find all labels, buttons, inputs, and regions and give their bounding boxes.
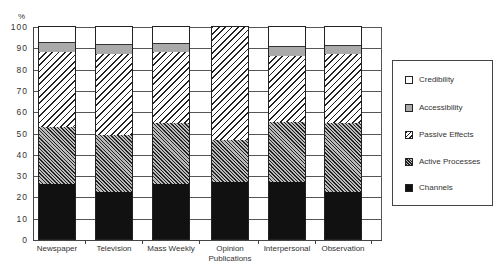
bar-opinion-publications xyxy=(211,26,249,240)
accessibility-segment xyxy=(325,45,361,53)
legend: Credibility Accessibility Passive Effect… xyxy=(392,60,493,206)
channels-segment xyxy=(212,182,248,239)
accessibility-segment xyxy=(153,43,189,53)
legend-item-credibility: Credibility xyxy=(405,75,454,84)
channels-segment xyxy=(153,184,189,239)
passive-effects-segment xyxy=(96,54,132,136)
legend-item-channels: Channels xyxy=(405,183,453,192)
credibility-segment xyxy=(325,27,361,45)
legend-label: Credibility xyxy=(419,75,454,84)
y-axis-line xyxy=(33,27,34,240)
y-tick-label: 80 xyxy=(0,65,28,75)
credibility-segment xyxy=(153,27,189,43)
accessibility-segment xyxy=(96,44,132,54)
active-processes-segment xyxy=(96,135,132,192)
y-tick-label: 10 xyxy=(0,214,28,224)
legend-label: Accessibility xyxy=(419,103,463,112)
x-label-line: Publications xyxy=(195,254,265,264)
bar-interpersonal xyxy=(268,26,306,240)
y-tick-label: 100 xyxy=(0,22,28,32)
accessibility-swatch-icon xyxy=(405,104,413,112)
y-tick-label: 90 xyxy=(0,43,28,53)
channels-segment xyxy=(96,192,132,239)
active-processes-segment xyxy=(269,122,305,181)
channels-segment xyxy=(325,192,361,239)
y-tick-label: 60 xyxy=(0,107,28,117)
active-processes-segment xyxy=(153,123,189,183)
passive-effects-segment xyxy=(269,56,305,123)
accessibility-segment xyxy=(39,42,75,53)
active-processes-segment xyxy=(39,127,75,184)
passive-effects-segment xyxy=(153,52,189,123)
channels-segment xyxy=(269,182,305,239)
y-tick-label: 20 xyxy=(0,192,28,202)
channels-segment xyxy=(39,184,75,239)
x-axis-line xyxy=(33,240,382,241)
active-processes-segment xyxy=(212,140,248,181)
credibility-segment xyxy=(269,27,305,46)
plot-area xyxy=(33,27,382,240)
x-label-line: Observation xyxy=(308,244,378,254)
bar-television xyxy=(95,26,133,240)
y-tick-label: 50 xyxy=(0,129,28,139)
credibility-segment xyxy=(96,27,132,44)
y-tick-label: 40 xyxy=(0,150,28,160)
legend-label: Channels xyxy=(419,183,453,192)
bar-newspaper xyxy=(38,26,76,240)
passive-effects-segment xyxy=(212,27,248,140)
bar-mass-weekly xyxy=(152,26,190,240)
y-tick-label: 30 xyxy=(0,171,28,181)
legend-item-accessibility: Accessibility xyxy=(405,103,463,112)
legend-item-active-processes: Active Processes xyxy=(405,157,480,166)
x-axis-label: Observation xyxy=(308,244,378,254)
legend-label: Active Processes xyxy=(419,157,480,166)
channels-swatch-icon xyxy=(405,184,413,192)
y-axis-unit: % xyxy=(18,12,25,21)
y-tick-label: 70 xyxy=(0,86,28,96)
active-processes-swatch-icon xyxy=(405,158,413,166)
passive-effects-swatch-icon xyxy=(405,131,413,139)
legend-label: Passive Effects xyxy=(419,130,474,139)
active-processes-segment xyxy=(325,123,361,192)
accessibility-segment xyxy=(269,46,305,56)
credibility-segment xyxy=(39,27,75,42)
passive-effects-segment xyxy=(325,54,361,124)
passive-effects-segment xyxy=(39,52,75,126)
bar-observation xyxy=(324,26,362,240)
legend-item-passive-effects: Passive Effects xyxy=(405,130,474,139)
credibility-swatch-icon xyxy=(405,76,413,84)
